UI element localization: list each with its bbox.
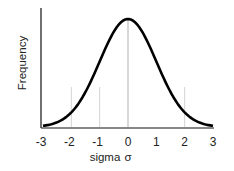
x-tick-label: 2 <box>181 135 188 149</box>
x-axis-label: sigma <box>90 151 121 163</box>
x-tick-label: 0 <box>125 135 132 149</box>
x-tick-label: -2 <box>64 135 75 149</box>
x-tick-labels: -3-2-10123 <box>36 135 217 149</box>
x-tick-label: -1 <box>92 135 103 149</box>
x-axis-sigma-symbol: σ <box>124 151 131 163</box>
x-tick-label: -3 <box>36 135 47 149</box>
x-tick-label: 1 <box>153 135 160 149</box>
gridlines <box>71 19 184 127</box>
x-tick-label: 3 <box>210 135 217 149</box>
y-axis-label: Frequency <box>16 36 28 91</box>
normal-distribution-chart: -3-2-10123 Frequency sigma σ <box>0 0 234 171</box>
